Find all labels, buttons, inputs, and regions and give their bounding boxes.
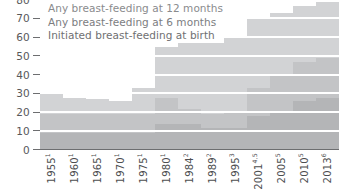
x-axis-tick-footnote: 4,5 <box>250 153 257 163</box>
gridline <box>40 74 339 76</box>
y-axis-tick: 50 <box>16 50 40 62</box>
x-axis-tick-year: 1984 <box>184 157 195 183</box>
x-axis-tick-footnote: 1 <box>66 153 73 157</box>
x-axis-tick-label: 19651 <box>92 153 103 183</box>
bar-segment-12-months <box>293 101 316 150</box>
x-axis-tick-footnote: 1 <box>43 153 50 157</box>
y-axis: 80706050403020100 <box>0 0 40 195</box>
x-axis-tick-footnote: 3 <box>227 153 234 157</box>
y-axis-tick: 70 <box>16 12 40 24</box>
x-axis-tick-label: 20014,5 <box>253 153 264 190</box>
y-axis-tick-mark <box>33 93 40 94</box>
x-axis-tick-year: 1960 <box>69 157 80 183</box>
bar-segment-12-months <box>132 133 155 150</box>
y-axis-tick-label: 60 <box>16 31 30 43</box>
x-axis-tick-label: 20136 <box>322 153 333 183</box>
y-axis-tick-label: 30 <box>16 87 30 99</box>
x-axis-tick-footnote: 5 <box>273 153 280 157</box>
x-axis-tick-year: 1955 <box>46 157 57 183</box>
x-axis-tick-year: 2013 <box>322 157 333 183</box>
x-axis-tick-label: 19953 <box>230 153 241 183</box>
bar-segment-12-months <box>316 98 339 151</box>
x-axis-tick-year: 1970 <box>115 157 126 183</box>
x-axis-tick-label: 19601 <box>69 153 80 183</box>
legend-item-12-months: Any breast-feeding at 12 months <box>48 2 223 16</box>
x-axis-tick-footnote: 1 <box>112 153 119 157</box>
gridline <box>40 55 339 57</box>
y-axis-tick: 30 <box>16 87 40 99</box>
x-axis-tick-footnote: 2 <box>204 153 211 157</box>
x-axis-tick-footnote: 1 <box>135 153 142 157</box>
breast-feeding-bar-chart: 80706050403020100 Any breast-feeding at … <box>0 0 339 195</box>
y-axis-tick: 0 <box>23 144 40 156</box>
y-axis-tick: 80 <box>16 0 40 6</box>
x-axis-tick-year: 1980 <box>161 157 172 183</box>
x-axis-tick-footnote: 5 <box>296 153 303 157</box>
y-axis-tick-mark <box>33 18 40 19</box>
y-axis-tick-label: 0 <box>23 144 30 156</box>
legend-item-6-months: Any breast-feeding at 6 months <box>48 16 223 30</box>
y-axis-tick: 10 <box>16 125 40 137</box>
y-axis-tick-mark <box>33 37 40 38</box>
legend-item-initiated: Initiated breast-feeding at birth <box>48 29 223 43</box>
gridline <box>40 130 339 132</box>
x-axis-tick-label: 20105 <box>299 153 310 183</box>
x-axis-tick-footnote: 6 <box>319 153 326 157</box>
x-axis-tick-year: 2010 <box>299 157 310 183</box>
bar-segment-12-months <box>247 116 270 150</box>
x-axis-tick-footnote: 2 <box>181 153 188 157</box>
gridline <box>40 111 339 113</box>
bar-segment-12-months <box>63 133 86 150</box>
y-axis-tick-label: 10 <box>16 125 30 137</box>
x-axis-tick-label: 19842 <box>184 153 195 183</box>
x-axis-tick-year: 1995 <box>230 157 241 183</box>
y-axis-tick: 40 <box>16 69 40 81</box>
y-axis-tick-mark <box>33 55 40 56</box>
y-axis-tick-label: 70 <box>16 12 30 24</box>
bar-segment-12-months <box>155 124 178 150</box>
x-axis-tick-year: 1975 <box>138 157 149 183</box>
x-axis-tick-year: 2005 <box>276 157 287 183</box>
gridline <box>40 92 339 94</box>
y-axis-tick-label: 20 <box>16 106 30 118</box>
x-axis-tick-footnote: 1 <box>89 153 96 157</box>
y-axis-tick: 60 <box>16 31 40 43</box>
y-axis-tick-label: 40 <box>16 69 30 81</box>
x-axis-tick-label: 19892 <box>207 153 218 183</box>
x-axis-tick-label: 19801 <box>161 153 172 183</box>
x-axis-tick-footnote: 1 <box>158 153 165 157</box>
y-axis-tick-mark <box>33 112 40 113</box>
bar-segment-12-months <box>109 133 132 150</box>
y-axis-tick-mark <box>33 149 40 150</box>
y-axis-tick-mark <box>33 130 40 131</box>
y-axis-tick-mark <box>33 74 40 75</box>
y-axis-tick-label: 50 <box>16 50 30 62</box>
y-axis-tick-label: 80 <box>16 0 30 6</box>
x-axis-tick-year: 2001 <box>253 163 264 189</box>
chart-legend: Any breast-feeding at 12 months Any brea… <box>48 2 223 43</box>
x-axis: 1955119601196511970119751198011984219892… <box>40 151 339 195</box>
y-axis-tick: 20 <box>16 106 40 118</box>
x-axis-tick-year: 1965 <box>92 157 103 183</box>
bar-segment-12-months <box>86 133 109 150</box>
bar-segment-12-months <box>178 124 201 150</box>
x-axis-tick-label: 20055 <box>276 153 287 183</box>
x-axis-tick-label: 19701 <box>115 153 126 183</box>
x-axis-tick-label: 19551 <box>46 153 57 183</box>
x-axis-tick-label: 19751 <box>138 153 149 183</box>
bar-segment-12-months <box>40 133 63 150</box>
x-axis-tick-year: 1989 <box>207 157 218 183</box>
